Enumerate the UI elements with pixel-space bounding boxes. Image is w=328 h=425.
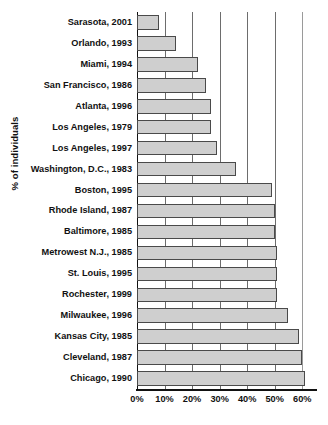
y-axis-category-labels: Sarasota, 2001Orlando, 1993Miami, 1994Sa… <box>12 12 132 389</box>
category-label: Los Angeles, 1997 <box>12 143 132 154</box>
category-label: Boston, 1995 <box>12 185 132 196</box>
bar <box>137 225 275 240</box>
bar <box>137 288 277 303</box>
x-tick-label: 60% <box>293 394 311 404</box>
category-label: Atlanta, 1996 <box>12 101 132 112</box>
category-label: St. Louis, 1995 <box>12 268 132 279</box>
x-tick-label: 10% <box>155 394 173 404</box>
bar <box>137 57 198 72</box>
bar <box>137 267 277 282</box>
bar <box>137 141 217 156</box>
bar <box>137 36 176 51</box>
bar <box>137 371 305 386</box>
category-label: Cleveland, 1987 <box>12 352 132 363</box>
x-tick-label: 30% <box>210 394 228 404</box>
bar <box>137 99 211 114</box>
gridline-60% <box>302 12 303 389</box>
category-label: Washington, D.C., 1983 <box>12 164 132 175</box>
category-label: Los Angeles, 1979 <box>12 122 132 133</box>
x-tick-label: 50% <box>265 394 283 404</box>
bar <box>137 78 206 93</box>
bar <box>137 15 159 30</box>
category-label: Kansas City, 1985 <box>12 331 132 342</box>
bar <box>137 308 288 323</box>
x-tick-label: 40% <box>238 394 256 404</box>
category-label: Orlando, 1993 <box>12 38 132 49</box>
category-label: Sarasota, 2001 <box>12 17 132 28</box>
bar <box>137 246 277 261</box>
bar <box>137 329 299 344</box>
category-label: Chicago, 1990 <box>12 373 132 384</box>
x-tick-label: 0% <box>130 394 143 404</box>
category-label: Miami, 1994 <box>12 59 132 70</box>
bar-chart: % of individuals Sarasota, 2001Orlando, … <box>0 0 328 425</box>
bar <box>137 350 302 365</box>
bar <box>137 204 275 219</box>
x-axis-tick-labels: 0%10%20%30%40%50%60% <box>137 394 328 410</box>
x-tick-label: 20% <box>183 394 201 404</box>
category-label: Rhode Island, 1987 <box>12 205 132 216</box>
category-label: Milwaukee, 1996 <box>12 310 132 321</box>
x-axis-line <box>136 389 317 391</box>
bar <box>137 120 211 135</box>
bar <box>137 162 236 177</box>
plot-area <box>137 12 316 389</box>
category-label: Rochester, 1999 <box>12 289 132 300</box>
category-label: Metrowest N.J., 1985 <box>12 247 132 258</box>
category-label: San Francisco, 1986 <box>12 80 132 91</box>
bar <box>137 183 272 198</box>
category-label: Baltimore, 1985 <box>12 226 132 237</box>
